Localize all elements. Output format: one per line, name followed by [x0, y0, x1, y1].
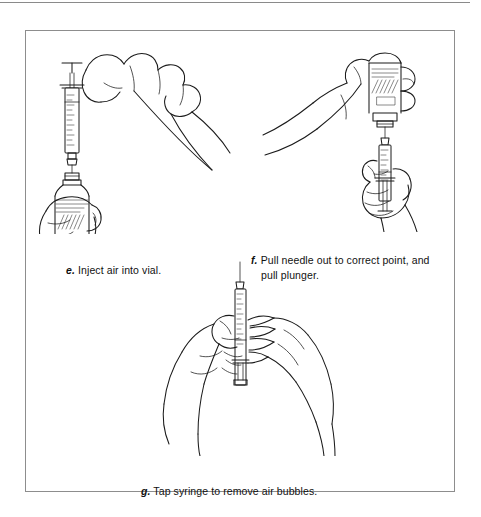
panel-e-label: e. [66, 264, 75, 276]
panel-f-caption-line-1: Pull needle out to correct point, and [261, 254, 430, 266]
page-top-rule [0, 2, 470, 3]
panel-g-caption-text: Tap syringe to remove air bubbles. [153, 485, 317, 497]
caption-panel-g: g. Tap syringe to remove air bubbles. [141, 484, 381, 499]
panel-f-illustration [241, 37, 446, 232]
figure-frame: e. Inject air into vial. f. Pull needle … [25, 30, 455, 492]
panel-e-caption-text: Inject air into vial. [78, 264, 161, 276]
panel-f-label: f. [251, 254, 258, 266]
panel-g-label: g. [141, 485, 151, 497]
panel-e-illustration [34, 39, 234, 234]
art-hand-injecting-air-into-inverted-vial [34, 39, 234, 234]
art-hands-pulling-plunger-from-inverted-vial [241, 37, 446, 232]
art-two-hands-tapping-syringe-barrel [136, 256, 351, 456]
caption-panel-f: f. Pull needle out to correct point, and… [251, 253, 446, 283]
panel-f-caption-line-2: pull plunger. [251, 268, 446, 283]
figure-page: e. Inject air into vial. f. Pull needle … [0, 0, 481, 517]
panel-g-illustration [136, 256, 351, 456]
caption-panel-e: e. Inject air into vial. [66, 263, 256, 278]
